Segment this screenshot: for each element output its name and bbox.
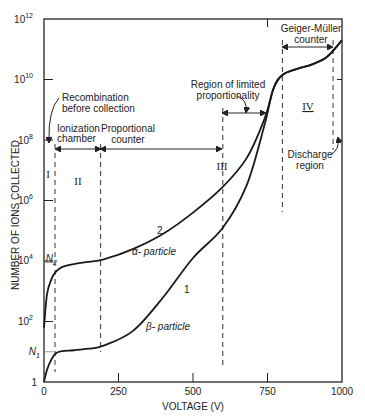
alpha-particle-label: α- particle: [132, 246, 176, 257]
x-tick-0: 0: [41, 386, 47, 397]
geiger-label-2: counter: [294, 34, 328, 45]
recombination-label-1: Recombination: [62, 92, 129, 103]
annotations: Recombination before collection Ionizati…: [57, 23, 342, 332]
y-tick-1e2: 102: [18, 314, 33, 327]
limited-label-2: proportionality: [197, 90, 260, 101]
n1-label: N1: [29, 346, 40, 359]
ionization-label-2: chamber: [57, 133, 97, 144]
x-tick-250: 250: [110, 386, 127, 397]
beta-particle-label: β- particle: [145, 321, 190, 332]
x-tick-labels: 0 250 500 750 1000: [41, 386, 353, 397]
y-tick-1e10: 1010: [14, 72, 33, 85]
y-tick-1e12: 1012: [14, 12, 33, 25]
x-tick-750: 750: [259, 386, 276, 397]
region-iv-label: IV: [302, 100, 314, 112]
plot-frame: [44, 19, 342, 382]
y-tick-1e6: 106: [18, 193, 33, 206]
proportional-label-1: Proportional: [101, 123, 155, 134]
limited-label-1: Region of limited: [191, 79, 265, 90]
curve-2-number: 2: [157, 225, 163, 236]
curve-1-number: 1: [184, 284, 190, 295]
recombination-label-2: before collection: [62, 103, 135, 114]
proportional-label-2: counter: [111, 134, 145, 145]
x-tick-1000: 1000: [331, 386, 354, 397]
y-tick-1: 1: [31, 377, 37, 388]
plot-border: [44, 19, 342, 382]
region-iii-label: III: [217, 160, 228, 172]
region-i-label: I: [46, 168, 50, 180]
x-axis-title: VOLTAGE (V): [162, 401, 224, 412]
y-tick-1e4: 104: [18, 253, 33, 266]
y-tick-1e8: 108: [18, 133, 33, 146]
geiger-label-1: Geiger-Müller: [281, 23, 342, 34]
x-tick-500: 500: [185, 386, 202, 397]
ion-collection-chart: 0 250 500 750 1000 VOLTAGE (V) NUMBER OF…: [0, 0, 365, 419]
y-axis-title: NUMBER OF IONS COLLECTED: [10, 140, 21, 290]
discharge-label-2: region: [296, 160, 324, 171]
region-ii-label: II: [74, 175, 82, 187]
discharge-label-1: Discharge: [287, 149, 332, 160]
